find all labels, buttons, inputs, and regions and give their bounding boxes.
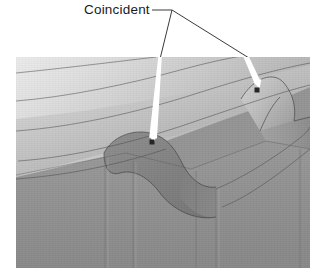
leader-line-left: [160, 10, 172, 59]
coincident-annotation-label: Coincident: [84, 2, 150, 18]
figure-root: Coincident: [0, 0, 326, 276]
leader-line-right: [172, 10, 249, 58]
model-viewport[interactable]: [16, 57, 310, 268]
model-render: [16, 57, 310, 268]
